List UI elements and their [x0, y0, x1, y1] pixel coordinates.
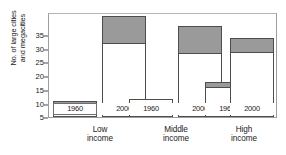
bar-year-label-low-1960: 1960: [53, 103, 97, 115]
y-tick-label: 25: [26, 60, 44, 68]
bar-segment-megacities: [178, 26, 222, 54]
plot-area: 1960 2000 1960 2000 1960 2000: [48, 13, 277, 118]
y-tick-label: 35: [26, 32, 44, 40]
bar-chart: and megacities No. of large cities 35 30…: [0, 0, 286, 155]
y-tick-label: 10: [26, 101, 44, 109]
group-label-line1: Low: [93, 125, 108, 134]
group-label-line1: High: [236, 125, 252, 134]
y-axis-tick-labels: 35 30 25 20 15 10 5: [22, 0, 44, 155]
bar-segment-megacities: [102, 16, 146, 44]
y-tick-label: 30: [26, 46, 44, 54]
y-tick-label: 15: [26, 87, 44, 95]
group-label-line1: Middle: [164, 125, 188, 134]
bar-segment-megacities: [230, 38, 274, 52]
y-tick-label: 20: [26, 73, 44, 81]
y-tick-label: 5: [26, 114, 44, 122]
bar-series: 1960 2000 1960 2000 1960 2000: [49, 14, 276, 117]
bar-year-label-middle-1960: 1960: [129, 103, 173, 115]
bar-year-label-high-2000: 2000: [230, 103, 274, 115]
group-label-high-income: High income: [198, 125, 286, 144]
group-label-line2: income: [198, 134, 286, 143]
